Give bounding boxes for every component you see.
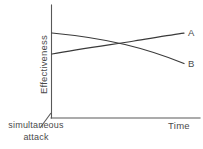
x-axis-label: Time bbox=[168, 121, 190, 131]
origin-annotation: simultaneous attack bbox=[0, 121, 72, 142]
origin-annotation-line-1: simultaneous bbox=[0, 121, 72, 130]
chart-figure: Effectiveness Time A B simultaneous atta… bbox=[0, 0, 203, 149]
y-axis-label: Effectiveness bbox=[39, 84, 99, 94]
series-label-a: A bbox=[188, 28, 194, 38]
series-curve-b bbox=[52, 33, 184, 64]
origin-annotation-line-2: attack bbox=[0, 133, 72, 142]
series-curve-a bbox=[52, 33, 184, 54]
series-label-b: B bbox=[188, 59, 194, 69]
